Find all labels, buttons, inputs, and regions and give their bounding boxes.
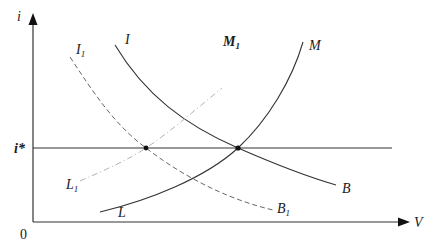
curve-I1-B1 xyxy=(70,57,273,210)
curve-M1-label: M1 xyxy=(222,34,240,51)
axes xyxy=(29,13,411,227)
curve-B1-label: B1 xyxy=(277,201,290,218)
intersection-point-I-M xyxy=(235,145,240,150)
x-axis-label: V xyxy=(414,215,424,230)
curve-L-label: L xyxy=(117,205,126,220)
origin-label: 0 xyxy=(20,227,27,242)
intersection-point-I1-M1 xyxy=(144,146,149,151)
curve-M-label: M xyxy=(308,38,322,53)
x-axis-arrow-icon xyxy=(398,218,410,227)
curve-I-label: I xyxy=(124,32,131,47)
curve-L1-label: L1 xyxy=(65,177,78,194)
y-axis-label: i xyxy=(17,9,21,24)
i-star-label: i* xyxy=(14,141,26,156)
curve-B-label: B xyxy=(342,181,351,196)
y-axis-arrow-icon xyxy=(29,13,38,25)
curve-L1-M1 xyxy=(80,88,222,181)
economic-diagram: i V 0 i* I B L M I1 B1 L1 M1 xyxy=(0,0,437,248)
curve-I-B xyxy=(115,45,336,185)
curve-I1-label: I1 xyxy=(75,42,85,59)
